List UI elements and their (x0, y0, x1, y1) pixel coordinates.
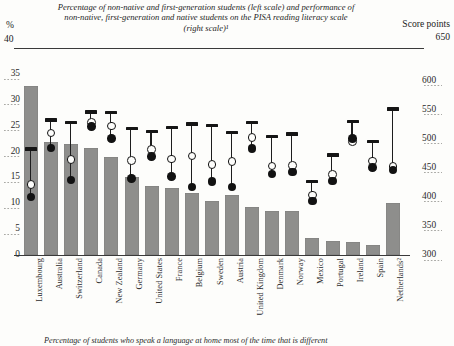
left-minor-rule (4, 234, 20, 235)
marker-stem (171, 128, 172, 177)
right-minor-rule (424, 172, 442, 173)
right-minor-rule (424, 114, 442, 115)
native-marker (206, 124, 218, 127)
bar-germany (125, 177, 139, 255)
category-label-norway: Norway (296, 258, 305, 285)
left-tick-10: 10 (0, 198, 20, 207)
native-marker (146, 130, 158, 133)
right-tick-300: 300 (422, 250, 450, 259)
native-marker (367, 140, 379, 143)
right-axis-top-value: 650 (436, 31, 450, 42)
left-tick-35: 35 (0, 69, 20, 78)
bar-portugal (326, 241, 340, 255)
non-native-marker (368, 163, 377, 172)
left-minor-rule (4, 182, 20, 183)
first-generation-marker (107, 122, 116, 131)
native-marker (25, 147, 37, 150)
native-marker (327, 153, 339, 156)
right-minor-rule (424, 230, 442, 231)
native-marker (306, 180, 318, 183)
chart-page: Percentage of non-native and first-gener… (0, 0, 454, 346)
marker-stem (130, 128, 131, 178)
right-axis-unit: Score points (402, 18, 450, 29)
category-label-ireland: Ireland (356, 258, 365, 282)
non-native-marker (308, 197, 317, 206)
marker-stem (211, 125, 212, 181)
chart-title: Percentage of non-native and first-gener… (56, 2, 356, 33)
category-label-unitedkingdom: United Kingdom (256, 258, 265, 315)
marker-stem (70, 122, 71, 180)
native-marker (286, 132, 298, 135)
non-native-marker (288, 168, 297, 177)
non-native-marker (167, 172, 176, 181)
native-marker (387, 107, 399, 110)
first-generation-marker (228, 157, 237, 166)
first-generation-marker (27, 180, 36, 189)
native-marker (226, 131, 238, 134)
left-tick-15: 15 (0, 172, 20, 181)
category-label-canada: Canada (95, 258, 104, 283)
left-axis-top-value: 40 (4, 33, 14, 44)
category-label-france: France (175, 258, 184, 281)
bar-unitedkingdom (245, 207, 259, 255)
left-tick-25: 25 (0, 121, 20, 130)
left-minor-rule (4, 156, 20, 157)
category-label-mexico: Mexico (316, 258, 325, 284)
native-marker (126, 127, 138, 130)
right-tick-500: 500 (422, 134, 450, 143)
category-label-sweden: Sweden (216, 258, 225, 285)
left-minor-rule (4, 79, 20, 80)
native-marker (266, 135, 278, 138)
non-native-marker (107, 134, 116, 143)
category-label-spain: Spain (376, 258, 385, 277)
marker-stem (30, 149, 31, 197)
native-marker (85, 110, 97, 113)
header-rule (14, 48, 424, 49)
non-native-marker (87, 122, 96, 131)
bar-canada (84, 148, 98, 255)
right-minor-rule (424, 260, 442, 261)
first-generation-marker (127, 156, 136, 165)
category-label-unitedstates: United States (155, 258, 164, 304)
category-label-belgium: Belgium (195, 258, 204, 287)
native-marker (45, 118, 57, 121)
bar-ireland (346, 242, 360, 255)
bar-sweden (205, 201, 219, 255)
bar-netherlands (386, 203, 400, 255)
native-marker (65, 121, 77, 124)
bar-belgium (185, 193, 199, 255)
left-minor-rule (4, 208, 20, 209)
right-minor-rule (424, 201, 442, 202)
non-native-marker (208, 177, 217, 186)
left-tick-5: 5 (0, 224, 20, 233)
bar-unitedstates (145, 186, 159, 255)
bar-mexico (305, 238, 319, 255)
right-tick-350: 350 (422, 221, 450, 230)
left-tick-30: 30 (0, 95, 20, 104)
right-tick-400: 400 (422, 192, 450, 201)
bar-austria (225, 195, 239, 255)
category-label-germany: Germany (135, 258, 144, 290)
category-label-netherlands: Netherlands² (396, 258, 405, 302)
native-marker (186, 122, 198, 125)
native-marker (246, 121, 258, 124)
right-minor-rule (424, 85, 442, 86)
native-marker (166, 126, 178, 129)
footnote: Percentage of students who speak a langu… (44, 336, 444, 345)
bar-spain (366, 245, 380, 255)
left-tick-0: 0 (0, 250, 20, 259)
category-label-newzealand: New Zealand (115, 258, 124, 304)
marker-stem (392, 109, 393, 170)
bar-australia (44, 142, 58, 255)
left-minor-rule (4, 130, 20, 131)
category-label-austria: Austria (236, 258, 245, 283)
category-label-luxembourg: Luxembourg (35, 258, 44, 302)
right-tick-600: 600 (422, 76, 450, 85)
right-tick-550: 550 (422, 105, 450, 114)
right-tick-450: 450 (422, 163, 450, 172)
first-generation-marker (208, 160, 217, 169)
baseline-axis (14, 255, 410, 256)
category-label-portugal: Portugal (336, 258, 345, 287)
left-tick-20: 20 (0, 147, 20, 156)
bar-denmark (265, 211, 279, 255)
